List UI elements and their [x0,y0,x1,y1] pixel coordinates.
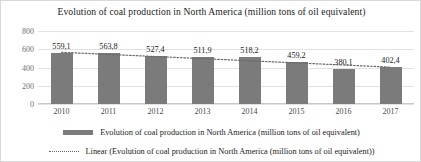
y-axis-tick-label: 200 [22,81,34,90]
plot-area: 8006004002000 559,12010563,82011527,4201… [38,31,414,104]
legend-label: Evolution of coal production in North Am… [100,128,360,137]
y-axis-tick-label: 600 [22,45,34,54]
x-axis-tick-label: 2013 [195,107,211,116]
legend-bar-swatch-icon [63,130,93,135]
legend-label: Linear (Evolution of coal production in … [86,147,375,156]
x-axis-tick-label: 2010 [54,107,70,116]
legend-dotted-line-swatch-icon [49,151,79,152]
y-axis-tick-label: 400 [22,63,34,72]
x-axis-tick-label: 2015 [289,107,305,116]
y-axis-tick-label: 800 [22,27,34,36]
chart-container: Evolution of coal production in North Am… [0,0,421,162]
x-axis-tick-label: 2012 [148,107,164,116]
x-axis-tick-label: 2014 [242,107,258,116]
x-axis-tick-label: 2016 [336,107,352,116]
x-axis-tick-label: 2011 [101,107,117,116]
gridline [38,104,414,105]
legend-item[interactable]: Linear (Evolution of coal production in … [1,142,421,161]
chart-legend: Evolution of coal production in North Am… [1,123,421,161]
y-axis-tick-label: 0 [30,100,34,109]
linear-trendline [38,31,414,104]
x-axis-tick-label: 2017 [383,107,399,116]
legend-item[interactable]: Evolution of coal production in North Am… [1,123,421,142]
chart-title: Evolution of coal production in North Am… [1,6,421,17]
